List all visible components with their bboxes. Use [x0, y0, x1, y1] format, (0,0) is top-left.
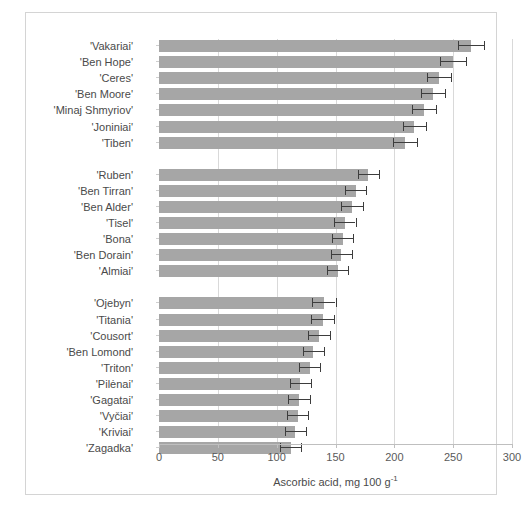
- bar-row: 'Tisel': [26, 216, 523, 230]
- bar-row: 'Titania': [26, 313, 523, 327]
- error-cap-high: [311, 379, 312, 388]
- error-cap-high: [366, 186, 367, 195]
- bar-row: 'Ben Tirran': [26, 184, 523, 198]
- x-tick-label: 250: [433, 451, 473, 463]
- error-bar: [341, 206, 362, 207]
- bar: [159, 56, 453, 68]
- error-cap-low: [403, 122, 404, 131]
- category-label: 'Tiben': [0, 136, 133, 150]
- bar-row: 'Ojebyn': [26, 296, 523, 310]
- bar: [159, 201, 352, 213]
- error-cap-high: [379, 170, 380, 179]
- error-cap-low: [303, 347, 304, 356]
- error-cap-low: [421, 89, 422, 98]
- category-label: 'Ben Hope': [0, 55, 133, 69]
- error-cap-high: [417, 138, 418, 147]
- error-cap-high: [310, 395, 311, 404]
- bar-row: 'Ceres': [26, 71, 523, 85]
- error-cap-low: [345, 186, 346, 195]
- error-cap-high: [336, 298, 337, 307]
- bar-row: 'Kriviai': [26, 425, 523, 439]
- error-bar: [421, 93, 445, 94]
- error-cap-low: [393, 138, 394, 147]
- bar: [159, 137, 405, 149]
- bar: [159, 265, 338, 277]
- error-bar: [308, 335, 329, 336]
- category-label: 'Joniniai': [0, 120, 133, 134]
- x-tick-mark: [394, 444, 395, 448]
- x-tick-label: 100: [257, 451, 297, 463]
- category-label: 'Ben Moore': [0, 87, 133, 101]
- x-tick-label: 150: [316, 451, 356, 463]
- bar-row: 'Almiai': [26, 264, 523, 278]
- error-cap-low: [288, 395, 289, 404]
- bar: [159, 249, 341, 261]
- bar-row: 'Pilėnai': [26, 377, 523, 391]
- bar: [159, 40, 471, 52]
- error-cap-high: [451, 73, 452, 82]
- bar: [159, 362, 310, 374]
- error-bar: [311, 319, 335, 320]
- error-bar: [440, 61, 466, 62]
- error-bar: [345, 190, 366, 191]
- x-tick-mark: [159, 444, 160, 448]
- x-axis-title-text: Ascorbic acid, mg 100 g: [273, 476, 390, 488]
- error-bar: [331, 254, 352, 255]
- category-label: 'Tisel': [0, 216, 133, 230]
- category-label: 'Titania': [0, 313, 133, 327]
- error-bar: [280, 447, 301, 448]
- bar-row: 'Ruben': [26, 168, 523, 182]
- category-label: 'Ben Alder': [0, 200, 133, 214]
- error-cap-low: [327, 266, 328, 275]
- bar-row: 'Vakariai': [26, 39, 523, 53]
- category-label: 'Ben Lomond': [0, 345, 133, 359]
- bar-row: 'Cousort': [26, 329, 523, 343]
- x-tick-label: 50: [198, 451, 238, 463]
- bar-row: 'Joniniai': [26, 120, 523, 134]
- x-tick-label: 300: [492, 451, 526, 463]
- error-cap-low: [290, 379, 291, 388]
- error-cap-low: [331, 250, 332, 259]
- category-label: 'Ceres': [0, 71, 133, 85]
- error-cap-high: [436, 105, 437, 114]
- category-label: 'Vakariai': [0, 39, 133, 53]
- category-label: 'Vyčiai': [0, 409, 133, 423]
- bar: [159, 233, 343, 245]
- error-cap-high: [363, 202, 364, 211]
- x-tick-mark: [512, 444, 513, 448]
- bar: [159, 217, 345, 229]
- bar: [159, 314, 323, 326]
- bar-row: 'Ben Dorain': [26, 248, 523, 262]
- error-bar: [312, 302, 336, 303]
- x-tick-label: 0: [139, 451, 179, 463]
- error-cap-low: [287, 411, 288, 420]
- bar-row: 'Triton': [26, 361, 523, 375]
- error-cap-low: [311, 315, 312, 324]
- error-bar: [412, 109, 436, 110]
- category-label: 'Ojebyn': [0, 296, 133, 310]
- error-cap-high: [445, 89, 446, 98]
- bar: [159, 297, 324, 309]
- error-bar: [299, 367, 320, 368]
- category-label: 'Almiai': [0, 264, 133, 278]
- bar: [159, 88, 433, 100]
- category-label: 'Zagadka': [0, 441, 133, 455]
- error-cap-high: [466, 57, 467, 66]
- error-bar: [285, 431, 306, 432]
- error-cap-high: [334, 315, 335, 324]
- category-label: 'Minaj Shmyriov': [0, 103, 133, 117]
- error-cap-low: [299, 363, 300, 372]
- x-axis-title-superscript: -1: [391, 474, 398, 483]
- bar-row: 'Ben Hope': [26, 55, 523, 69]
- bar: [159, 72, 439, 84]
- error-cap-high: [484, 41, 485, 50]
- category-label: 'Kriviai': [0, 425, 133, 439]
- error-cap-high: [426, 122, 427, 131]
- bar-row: 'Tiben': [26, 136, 523, 150]
- bar-row: 'Bona': [26, 232, 523, 246]
- error-cap-low: [341, 202, 342, 211]
- category-label: 'Pilėnai': [0, 377, 133, 391]
- category-label: 'Bona': [0, 232, 133, 246]
- bar: [159, 394, 299, 406]
